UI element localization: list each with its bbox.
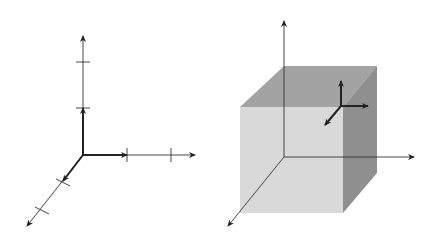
left-diagram	[27, 36, 195, 226]
left-i-vector	[63, 155, 83, 181]
figure	[0, 0, 426, 247]
right-diagram	[228, 21, 414, 226]
